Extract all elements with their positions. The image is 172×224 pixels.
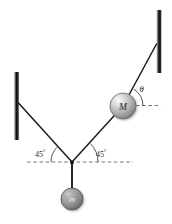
mass-M-label: M [118,102,128,112]
mass-M-group: M [110,93,136,119]
theta-label: θ [139,84,143,94]
mass-m-group: m [61,188,83,210]
left-wall [14,72,20,140]
mass-m-label: m [69,194,75,204]
physics-diagram-figure: M m 45° 45° θ [0,0,172,224]
string-junction-knot [70,161,74,165]
right-wall [156,10,162,73]
diagram-canvas: M m 45° 45° θ [0,0,172,224]
